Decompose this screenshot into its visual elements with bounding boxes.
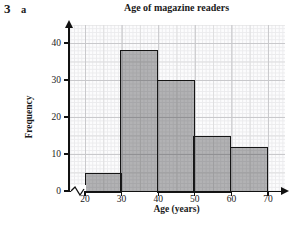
histogram-bar-20-30 [85,173,122,193]
histogram-bar-50-60 [193,136,231,193]
histogram-bar-30-40 [120,50,158,192]
y-tick-mark [64,42,69,43]
y-axis-title: Frequency [24,95,34,138]
y-tick-label: 20 [31,112,61,123]
y-axis-line [68,26,70,192]
y-tick-mark [64,190,69,191]
x-axis-arrow-icon [281,187,289,195]
x-axis-line [68,191,283,193]
y-tick-mark [64,116,69,117]
y-tick-label: 10 [31,149,61,160]
x-tick-label: 20 [80,194,90,204]
y-tick-mark [64,79,69,80]
chart-title: Age of magazine readers [68,2,285,13]
x-tick-label: 70 [263,194,273,204]
x-tick-label: 60 [227,194,237,204]
textbook-figure: 3 a Age of magazine readers 203040506070… [0,0,291,228]
x-tick-label: 30 [117,194,127,204]
y-tick-label: 40 [31,38,61,49]
exercise-part-label: a [21,4,26,15]
exercise-number: 3 [4,1,11,17]
histogram-bar-60-70 [230,147,268,193]
x-axis-title: Age (years) [68,204,285,214]
histogram-bar-40-50 [157,80,195,193]
x-tick-label: 50 [190,194,200,204]
y-tick-mark [64,153,69,154]
y-tick-label: 0 [31,186,61,197]
x-tick-label: 40 [153,194,163,204]
y-axis-arrow-icon [65,20,73,28]
y-tick-label: 30 [31,75,61,86]
